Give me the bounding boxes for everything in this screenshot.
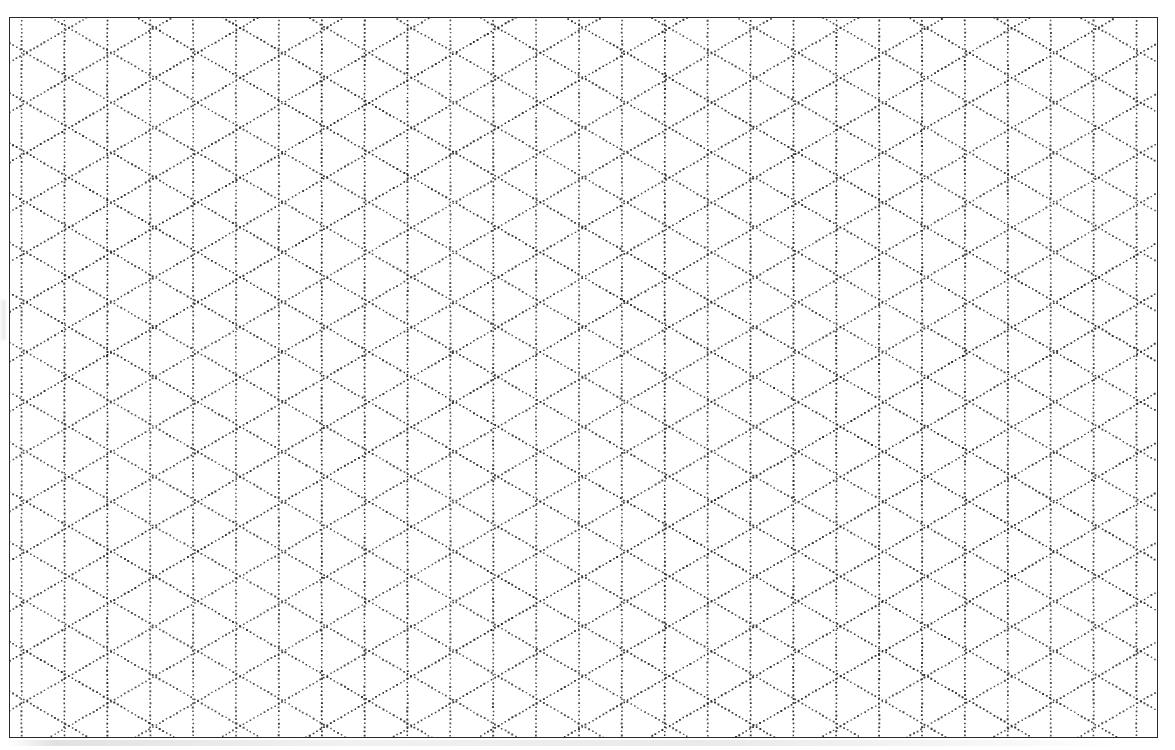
bottom-edge-smudge [9, 740, 1129, 746]
left-edge-smudge [1, 300, 6, 340]
grid-border-plate [9, 17, 1158, 738]
page-canvas [0, 0, 1175, 750]
diagonal-up-right-dotted-lines-layer [10, 18, 1157, 737]
